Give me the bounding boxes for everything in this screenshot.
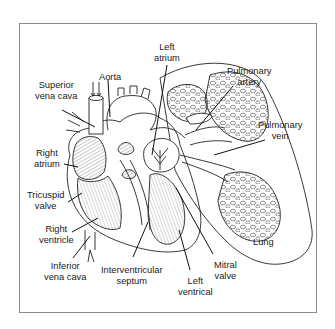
label-lung: Lung: [253, 237, 274, 248]
label-mitral-valve: Mitral valve: [214, 260, 237, 282]
label-tricuspid-valve: Tricuspid valve: [27, 190, 64, 212]
label-superior-vena-cava: Superior vena cava: [35, 80, 77, 102]
label-left-atrium: Left atrium: [154, 42, 180, 64]
label-pulmonary-vein: Pulmonary vein: [258, 120, 302, 142]
lung: [160, 63, 312, 264]
label-left-ventrical: Left ventrical: [178, 276, 213, 298]
label-right-atrium: Right atrium: [34, 148, 60, 170]
label-pulmonary-artery: Pulmonary artery: [227, 66, 271, 88]
label-inferior-vena-cava: Inferior vena cava: [44, 261, 86, 283]
label-right-ventricle: Right ventricle: [39, 224, 74, 246]
label-interventricular-septum: Interventricular septum: [101, 265, 163, 287]
label-aorta: Aorta: [99, 72, 121, 83]
